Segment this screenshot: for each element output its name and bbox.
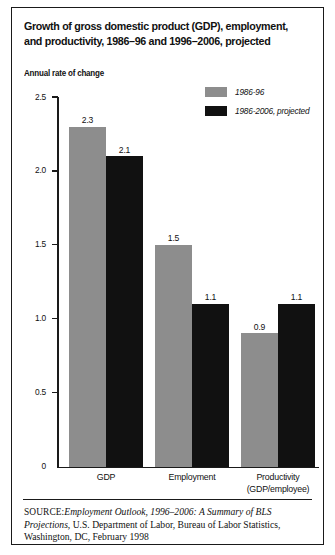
y-tick-label: 1.5 [20, 239, 46, 249]
bar-value-gdp-1986-96: 2.3 [73, 115, 103, 125]
y-axis-ticks: 00.51.01.52.02.5 [12, 8, 57, 478]
y-tick-label: 1.0 [20, 313, 46, 323]
bar-value-productivity-1986-96: 0.9 [245, 322, 275, 332]
y-tick-label: 0 [20, 461, 46, 471]
y-tick: 2.0 [18, 165, 46, 176]
plot-area: 00.51.01.52.02.5 2.3 2.1 1.5 1.1 0.9 [12, 8, 324, 478]
y-tick-mark [52, 170, 58, 171]
figure-frame: Growth of gross domestic product (GDP), … [11, 7, 324, 545]
source-divider [23, 499, 312, 500]
bar-value-productivity-1986-2006: 1.1 [282, 292, 312, 302]
source-note: SOURCE:Employment Outlook, 1996–2006: A … [24, 506, 309, 544]
x-axis-line [57, 467, 319, 469]
bar-value-employment-1986-96: 1.5 [159, 233, 189, 243]
y-tick: 0.5 [18, 387, 46, 398]
bar-productivity-1986-96 [241, 333, 278, 466]
bar-value-gdp-1986-2006: 2.1 [110, 145, 140, 155]
y-tick-label: 2.5 [20, 92, 46, 102]
y-tick-label: 2.0 [20, 165, 46, 175]
bar-gdp-1986-96 [69, 127, 106, 467]
y-tick-mark [52, 392, 58, 393]
y-tick-mark [52, 244, 58, 245]
bar-employment-1986-2006 [192, 304, 229, 467]
source-label: SOURCE: [24, 507, 64, 517]
y-tick: 0 [18, 461, 46, 472]
y-tick: 1.5 [18, 239, 46, 250]
y-tick-label: 0.5 [20, 387, 46, 397]
bar-group-employment [155, 96, 229, 467]
y-axis-line [57, 97, 59, 468]
y-tick-mark [52, 318, 58, 319]
y-tick: 1.0 [18, 313, 46, 324]
bar-value-employment-1986-2006: 1.1 [196, 292, 226, 302]
bar-employment-1986-96 [155, 245, 192, 467]
y-tick: 2.5 [18, 92, 46, 103]
x-axis-label-productivity: Productivity(GDP/employee) [223, 472, 324, 495]
bar-gdp-1986-2006 [106, 156, 143, 466]
bar-group-productivity [241, 96, 315, 467]
y-tick-mark [52, 96, 58, 97]
bar-productivity-1986-2006 [278, 304, 315, 467]
